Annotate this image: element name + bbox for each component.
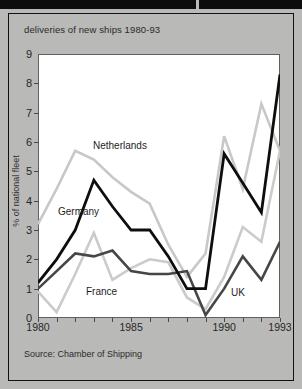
chart-figure: deliveries of new ships 1980-93 01234567… xyxy=(0,0,302,389)
x-tick-label: 1980 xyxy=(26,321,49,333)
x-tick-label: 1985 xyxy=(119,321,142,333)
series-label-germany: Germany xyxy=(58,206,99,217)
y-axis-title: % of national fleet xyxy=(11,143,21,239)
series-label-france: France xyxy=(86,286,117,297)
series-label-netherlands: Netherlands xyxy=(93,140,147,151)
x-tick-label: 1993 xyxy=(268,321,291,333)
x-axis-labels: 1980198519901993 xyxy=(0,0,302,389)
x-tick-label: 1990 xyxy=(212,321,235,333)
series-label-uk: UK xyxy=(231,287,245,298)
source-note: Source: Chamber of Shipping xyxy=(24,349,142,359)
